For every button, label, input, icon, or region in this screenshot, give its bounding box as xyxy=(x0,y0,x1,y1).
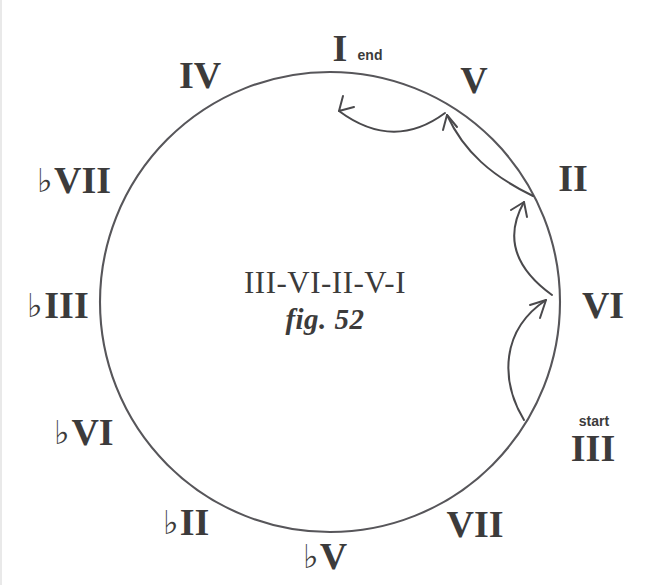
degree-numeral-iv: IV xyxy=(179,54,221,96)
degree-numeral-vi: VI xyxy=(582,284,624,326)
progression-sequence: III-VI-II-V-I xyxy=(244,267,406,300)
degree-label-flat-iii[interactable]: ♭III xyxy=(27,286,88,324)
degree-label-flat-vi[interactable]: ♭VI xyxy=(54,413,113,451)
flat-sign-icon-v: ♭ xyxy=(303,539,320,575)
flat-sign-icon-vi: ♭ xyxy=(54,415,71,451)
degree-label-i[interactable]: I xyxy=(333,29,348,67)
flat-sign-icon-ii: ♭ xyxy=(163,505,180,541)
end-marker-label: end xyxy=(358,48,383,62)
degree-label-flat-ii[interactable]: ♭II xyxy=(163,503,210,541)
arrow-ii-to-v-shaft xyxy=(447,115,533,196)
degree-label-flat-v[interactable]: ♭V xyxy=(303,537,347,575)
degree-numeral-i: I xyxy=(333,27,348,69)
degree-numeral-vii: VII xyxy=(446,503,503,545)
progression-arrow-group xyxy=(339,96,552,420)
arrow-vi-to-ii-shaft xyxy=(514,202,552,295)
degree-label-flat-vii[interactable]: ♭VII xyxy=(37,161,111,199)
arrow-v-to-i-head xyxy=(339,96,354,111)
degree-numeral-flat-iii: III xyxy=(44,284,88,326)
figure-number-caption: fig. 52 xyxy=(244,302,406,337)
degree-numeral-flat-vi: VI xyxy=(71,411,113,453)
figure-canvas: I V II VI III VII ♭V ♭II ♭VI ♭III ♭VII I… xyxy=(0,0,650,585)
arrow-v-to-i-shaft xyxy=(339,111,445,132)
degree-numeral-flat-v: V xyxy=(320,535,347,577)
degree-label-vi[interactable]: VI xyxy=(582,286,624,324)
center-caption-block: III-VI-II-V-I fig. 52 xyxy=(244,267,406,336)
degree-label-iii[interactable]: III xyxy=(571,429,615,467)
degree-numeral-flat-vii: VII xyxy=(54,159,111,201)
flat-sign-icon-iii: ♭ xyxy=(27,288,44,324)
degree-label-v[interactable]: V xyxy=(460,61,487,99)
flat-sign-icon-vii: ♭ xyxy=(37,163,54,199)
start-marker-label: start xyxy=(579,414,609,428)
degree-numeral-flat-ii: II xyxy=(180,501,210,543)
degree-label-iv[interactable]: IV xyxy=(179,56,221,94)
degree-numeral-v: V xyxy=(460,59,487,101)
degree-label-vii[interactable]: VII xyxy=(446,505,503,543)
degree-label-ii[interactable]: II xyxy=(558,159,588,197)
degree-numeral-iii: III xyxy=(571,427,615,469)
degree-numeral-ii: II xyxy=(558,157,588,199)
